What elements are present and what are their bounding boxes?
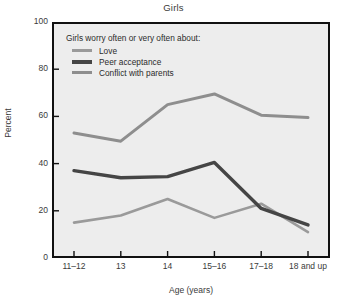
series-line-conflict-with-parents xyxy=(74,94,308,141)
x-tick-label: 11–12 xyxy=(62,261,85,271)
legend-swatch-love xyxy=(72,49,92,52)
legend-swatch-conflict-with-parents xyxy=(72,71,92,74)
chart-figure: Girls Percent 020406080100 11–12131415–1… xyxy=(0,0,347,307)
legend-label-love: Love xyxy=(99,46,117,56)
legend-swatch-peer-acceptance xyxy=(72,60,92,64)
series-line-love xyxy=(74,199,308,232)
legend-label-peer-acceptance: Peer acceptance xyxy=(99,57,161,67)
y-tick-label: 80 xyxy=(22,63,48,73)
x-axis-tick-labels: 11–12131415–1617–1818 and up xyxy=(52,261,330,279)
y-tick-label: 60 xyxy=(22,110,48,120)
y-tick-label: 0 xyxy=(22,252,48,262)
x-axis-label: Age (years) xyxy=(52,285,330,295)
x-tick-label: 13 xyxy=(116,261,125,271)
y-tick-label: 40 xyxy=(22,158,48,168)
x-tick-label: 15–16 xyxy=(203,261,227,271)
legend-title: Girls worry often or very often about: xyxy=(66,33,256,43)
y-axis-label: Percent xyxy=(3,93,13,153)
y-tick-label: 100 xyxy=(22,16,48,26)
y-axis-tick-labels: 020406080100 xyxy=(18,0,48,307)
chart-title: Girls xyxy=(0,2,347,13)
legend-item-love: Love xyxy=(72,45,256,56)
y-tick-label: 20 xyxy=(22,205,48,215)
legend-label-conflict-with-parents: Conflict with parents xyxy=(99,68,174,78)
x-tick-label: 14 xyxy=(163,261,172,271)
x-tick-label: 18 and up xyxy=(289,261,327,271)
legend-item-peer-acceptance: Peer acceptance xyxy=(72,56,256,67)
chart-legend: Girls worry often or very often about: L… xyxy=(66,33,256,78)
legend-item-conflict-with-parents: Conflict with parents xyxy=(72,67,256,78)
series-line-peer-acceptance xyxy=(74,162,308,225)
x-tick-label: 17–18 xyxy=(249,261,273,271)
